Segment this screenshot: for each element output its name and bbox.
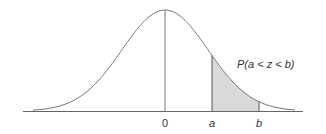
- normal-distribution-diagram: P(a < z < b) 0 a b: [0, 0, 326, 134]
- tick-label-a: a: [209, 117, 215, 129]
- tick-label-b: b: [256, 117, 262, 129]
- tick-label-0: 0: [162, 117, 168, 129]
- probability-label: P(a < z < b): [237, 58, 295, 70]
